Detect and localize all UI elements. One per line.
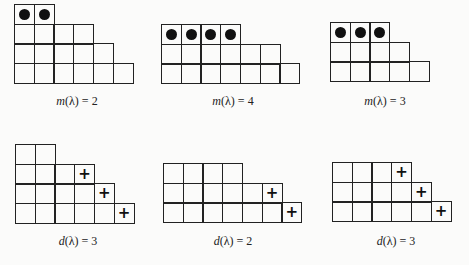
diagram-cell [389, 42, 410, 63]
diagram-row: + [15, 164, 94, 185]
diagram-row [163, 163, 242, 184]
diagram-cell [94, 203, 115, 224]
diagram-caption: d(λ) = 3 [59, 234, 98, 249]
diagram-cell [279, 63, 300, 84]
diagram-caption: m(λ) = 4 [212, 94, 253, 109]
diagram-cell [350, 22, 371, 43]
diagram-cell [330, 61, 351, 82]
dot-icon [205, 29, 216, 40]
diagram-row [330, 42, 409, 63]
diagram-cell [242, 202, 263, 223]
diagram-row: + [15, 203, 133, 224]
diagram-cell [369, 61, 390, 82]
diagram-cell [181, 63, 202, 84]
diagram-cell [352, 182, 373, 203]
dot-icon [19, 9, 30, 20]
diagram-cell [332, 182, 353, 203]
diagram-cell [14, 63, 35, 84]
diagram-caption: m(λ) = 3 [364, 94, 405, 109]
diagram-cell: + [411, 182, 432, 203]
diagram-cell [371, 162, 392, 183]
plus-icon: + [98, 186, 111, 201]
diagram-cell [183, 163, 204, 184]
diagram-cell [73, 43, 94, 64]
diagram-cell [240, 44, 261, 65]
diagram-cell [53, 24, 74, 45]
diagram-row [161, 44, 279, 65]
plus-icon: + [415, 185, 428, 200]
diagram-cell [163, 163, 184, 184]
diagram-cell [389, 61, 410, 82]
plus-icon: + [395, 165, 408, 180]
diagram-cell [202, 183, 223, 204]
diagram-cell [330, 22, 351, 43]
diagram-cell [15, 203, 36, 224]
diagram-cell [183, 183, 204, 204]
diagram-cell [240, 63, 261, 84]
diagram-cell [93, 43, 114, 64]
diagram-cell [222, 202, 243, 223]
diagram-cell [73, 63, 94, 84]
diagram-cell [54, 203, 75, 224]
diagram-row [14, 24, 93, 45]
plus-icon: + [118, 206, 131, 221]
dot-icon [39, 9, 50, 20]
diagram-cell [34, 24, 55, 45]
diagram-cell: + [431, 201, 452, 222]
diagram-row [161, 63, 299, 84]
diagram-cell [332, 162, 353, 183]
plus-icon: + [435, 204, 448, 219]
diagram-cell [391, 201, 412, 222]
diagram-cell [352, 201, 373, 222]
diagram-caption: m(λ) = 2 [56, 94, 97, 109]
diagram-cell [369, 42, 390, 63]
diagram-cell [260, 44, 281, 65]
diagram-row: + [332, 162, 411, 183]
diagram-cell [161, 44, 182, 65]
diagram-cell [14, 43, 35, 64]
diagram-cell [35, 144, 56, 165]
diagram-row [330, 61, 429, 82]
diagram-cell [371, 182, 392, 203]
diagram-cell [161, 63, 182, 84]
diagram-cell [53, 63, 74, 84]
plus-icon: + [78, 167, 91, 182]
dot-icon [166, 29, 177, 40]
diagram-cell [369, 22, 390, 43]
diagram-cell [181, 24, 202, 45]
diagram-cell [181, 44, 202, 65]
diagram-row [14, 63, 132, 84]
diagram-cell [163, 183, 184, 204]
diagram-cell [14, 4, 35, 25]
diagram-cell [54, 183, 75, 204]
dot-icon [374, 27, 385, 38]
diagram-cell [113, 63, 134, 84]
diagram-cell [200, 24, 221, 45]
diagram-row [15, 144, 54, 165]
diagram-cell [371, 201, 392, 222]
diagram-cell [35, 203, 56, 224]
diagram-cell [202, 163, 223, 184]
diagram-cell [391, 182, 412, 203]
diagram-cell [163, 202, 184, 223]
diagram-cell: + [74, 164, 95, 185]
diagram-cell [53, 43, 74, 64]
diagram-cell [73, 24, 94, 45]
diagram-cell: + [262, 183, 283, 204]
diagram-row: + [332, 182, 431, 203]
diagram-cell [222, 163, 243, 184]
diagram-cell [183, 202, 204, 223]
diagram-row: + [332, 201, 450, 222]
diagram-row: + [15, 183, 114, 204]
dot-icon [335, 27, 346, 38]
diagram-cell [409, 61, 430, 82]
diagram-cell [34, 63, 55, 84]
diagram-caption: d(λ) = 2 [214, 234, 253, 249]
diagram-cell [200, 63, 221, 84]
diagram-cell [15, 164, 36, 185]
diagram-cell [161, 24, 182, 45]
diagram-cell [220, 44, 241, 65]
diagram-cell [260, 63, 281, 84]
diagram-cell [352, 162, 373, 183]
diagram-cell [54, 164, 75, 185]
